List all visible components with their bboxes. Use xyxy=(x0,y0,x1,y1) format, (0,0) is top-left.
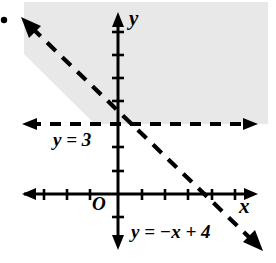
shaded-solution-region xyxy=(24,2,268,124)
x-axis-arrow-left-icon xyxy=(22,188,36,200)
inequality-graph-figure: y x O y = 3 y = −x + 4 xyxy=(0,0,276,263)
line-label-y-equals-3: y = 3 xyxy=(53,130,91,149)
x-axis xyxy=(22,188,258,200)
bullet-dot-icon xyxy=(1,17,7,23)
x-axis-label: x xyxy=(239,196,250,217)
y-axis-arrow-down-icon xyxy=(112,235,124,250)
origin-label: O xyxy=(92,194,106,213)
shaded-region-fill xyxy=(24,2,268,124)
y-axis-label: y xyxy=(129,8,138,29)
line-label-y-equals-neg-x-plus-4: y = −x + 4 xyxy=(131,222,211,241)
line-y-equals-3-arrow-left-icon xyxy=(22,118,37,130)
